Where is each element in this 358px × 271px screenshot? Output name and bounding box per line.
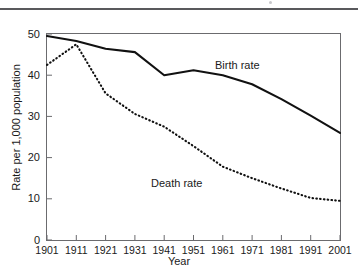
birth-rate-annotation: Birth rate <box>215 60 260 71</box>
y-axis-title: Rate per 1,000 population <box>11 48 22 208</box>
death-rate-annotation: Death rate <box>151 178 202 189</box>
page-artifact-speck <box>269 1 272 4</box>
plot-area-border <box>47 34 341 241</box>
line-chart-canvas <box>0 10 358 271</box>
chart-figure: 50 40 30 20 10 0 1901 1911 1921 1931 194… <box>0 10 358 271</box>
x-axis-title: Year <box>0 256 358 267</box>
x-tick-label-2001: 2001 <box>323 245 357 256</box>
y-tick-label-50: 50 <box>14 29 40 40</box>
